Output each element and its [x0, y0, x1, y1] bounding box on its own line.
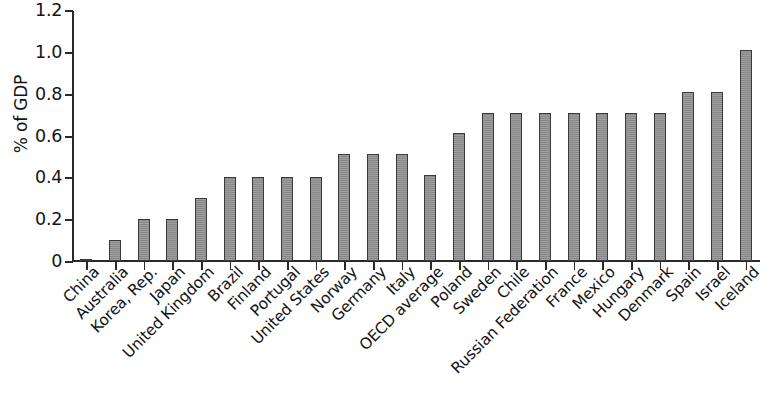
- bar: [109, 240, 121, 261]
- y-tick-mark: [65, 94, 73, 96]
- bar: [539, 113, 551, 262]
- bar: [568, 113, 580, 262]
- bar: [310, 177, 322, 261]
- bar: [281, 177, 293, 261]
- bar: [367, 154, 379, 261]
- y-tick-label: 0: [22, 253, 62, 271]
- y-tick-label: 1.2: [22, 2, 62, 20]
- y-tick-mark: [65, 177, 73, 179]
- y-tick-mark: [65, 136, 73, 138]
- bar: [424, 175, 436, 261]
- y-tick-mark: [65, 52, 73, 54]
- bar: [482, 113, 494, 262]
- bar: [195, 198, 207, 261]
- bar: [740, 50, 752, 261]
- bar: [596, 113, 608, 262]
- plot-area: [72, 11, 760, 262]
- bars-layer: [72, 11, 760, 262]
- bar: [711, 92, 723, 261]
- bar: [625, 113, 637, 262]
- bar: [453, 133, 465, 261]
- bar: [682, 92, 694, 261]
- bar: [654, 113, 666, 262]
- bar-chart: % of GDP 00.20.40.60.81.01.2 ChinaAustra…: [0, 0, 769, 393]
- y-tick-label: 0.2: [22, 211, 62, 229]
- y-tick-label: 0.6: [22, 128, 62, 146]
- bar: [396, 154, 408, 261]
- y-tick-label: 1.0: [22, 44, 62, 62]
- bar: [224, 177, 236, 261]
- bar: [138, 219, 150, 261]
- y-tick-mark: [65, 219, 73, 221]
- bar: [338, 154, 350, 261]
- bar: [252, 177, 264, 261]
- x-axis-tick-labels: ChinaAustraliaKorea, Rep.JapanUnited Kin…: [72, 263, 760, 393]
- y-axis-tick-labels: 00.20.40.60.81.01.2: [14, 0, 62, 393]
- y-tick-label: 0.8: [22, 86, 62, 104]
- bar: [510, 113, 522, 262]
- y-tick-label: 0.4: [22, 169, 62, 187]
- bar: [166, 219, 178, 261]
- y-tick-mark: [65, 10, 73, 12]
- bar: [80, 259, 92, 262]
